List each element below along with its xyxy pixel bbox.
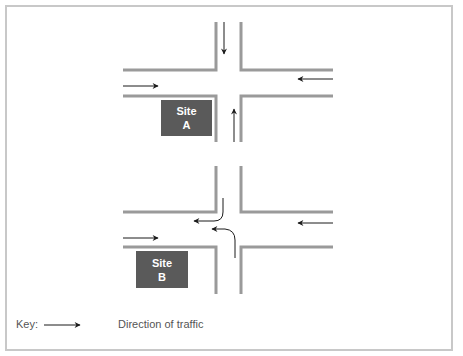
road-edge-bottom-right	[241, 96, 333, 142]
key-meaning: Direction of traffic	[118, 318, 203, 330]
key-legend: Key: Direction of traffic	[16, 318, 203, 330]
site-a-line1: Site	[161, 104, 212, 118]
site-a-line2: A	[161, 118, 212, 132]
site-b-line2: B	[136, 270, 188, 284]
road-edge-top-left	[123, 22, 216, 70]
upper-arrows	[123, 22, 333, 142]
upper-intersection	[123, 22, 333, 142]
lower-arrows	[123, 198, 333, 258]
road-edge-top-left	[123, 166, 216, 212]
road-edge-bottom-right	[241, 247, 333, 294]
road-edge-top-right	[241, 166, 333, 212]
traffic-diagram	[0, 0, 463, 356]
site-b-label: Site B	[136, 256, 188, 284]
site-b-line1: Site	[136, 256, 188, 270]
site-a-label: Site A	[161, 104, 212, 132]
key-label: Key:	[16, 318, 38, 330]
road-edge-top-right	[241, 22, 333, 70]
arrow-turn-left-from-north-icon	[194, 198, 223, 221]
